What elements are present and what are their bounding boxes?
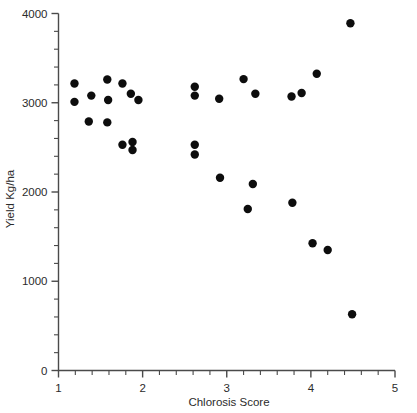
data-point (134, 96, 142, 104)
data-point (249, 180, 257, 188)
data-point (297, 89, 305, 97)
axes (59, 14, 396, 371)
data-point (287, 92, 295, 100)
data-point (70, 79, 78, 87)
data-point (104, 96, 112, 104)
data-point (128, 146, 136, 154)
data-point (346, 19, 354, 27)
data-point (191, 82, 199, 90)
x-tick-label: 3 (224, 382, 230, 394)
x-tick-label: 2 (139, 382, 145, 394)
y-tick-label: 0 (41, 365, 47, 377)
data-point (216, 174, 224, 182)
data-point (288, 199, 296, 207)
y-axis-title: Yield Kg/ha (4, 169, 16, 228)
data-point (103, 75, 111, 83)
tick-marks (52, 14, 396, 378)
y-tick-label: 1000 (22, 275, 48, 287)
x-tick-label: 4 (308, 382, 315, 394)
data-point (127, 90, 135, 98)
y-tick-label: 4000 (22, 8, 48, 20)
data-point (239, 75, 247, 83)
data-point (128, 138, 136, 146)
data-point (191, 91, 199, 99)
data-point (308, 239, 316, 247)
data-point (118, 79, 126, 87)
data-point (191, 150, 199, 158)
data-point (191, 141, 199, 149)
data-point (251, 90, 259, 98)
data-point (118, 141, 126, 149)
data-points (70, 19, 356, 318)
data-point (70, 98, 78, 106)
x-axis-title: Chlorosis Score (188, 396, 269, 408)
y-tick-label: 3000 (22, 97, 48, 109)
x-tick-label: 5 (392, 382, 398, 394)
plot-area: 0100020003000400012345 Chlorosis Score Y… (0, 0, 417, 413)
data-point (313, 70, 321, 78)
data-point (324, 246, 332, 254)
x-tick-label: 1 (55, 382, 61, 394)
scatter-chart: 0100020003000400012345 Chlorosis Score Y… (0, 0, 417, 413)
tick-labels: 0100020003000400012345 (22, 8, 398, 394)
data-point (244, 205, 252, 213)
data-point (85, 117, 93, 125)
data-point (348, 310, 356, 318)
data-point (103, 118, 111, 126)
y-tick-label: 2000 (22, 186, 48, 198)
data-point (87, 91, 95, 99)
data-point (215, 95, 223, 103)
